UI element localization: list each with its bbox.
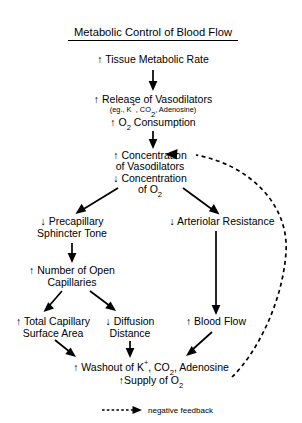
node-precapillary-sphincter-tone-line1: ↓ Precapillary [40,215,104,227]
concentration-o2-subscript: 2 [158,190,162,199]
metabolic-control-diagram: Metabolic Control of Blood Flow ↑ Tissue… [0,0,302,423]
node-tissue-metabolic-rate: ↑ Tissue Metabolic Rate [97,53,209,65]
edge-arteriolar-resistance-to-blood-flow [212,231,221,315]
node-open-capillaries-line2: Capillaries [47,276,96,288]
node-release-of-vasodilators: ↑ Release of Vasodilators [94,93,212,105]
supply-o2-subscript: 2 [179,381,183,390]
edge-open-capillaries-to-diffusion-distance [90,291,116,311]
vasodilator-examples-prefix: (eg., K [110,105,132,114]
o2-consumption-prefix: ↑ O [110,116,126,128]
washout-prefix: ↑ Washout of K [73,361,144,373]
edge-open-capillaries-to-surface-area [44,291,63,312]
node-diffusion-distance-line1: ↓ Diffusion [106,315,155,327]
edge-surface-area-to-washout [55,340,76,357]
edge-concentration-to-arteriolar-resistance [183,188,220,215]
node-concentration-vasodilators-line2: of Vasodilators [116,160,185,172]
page-title: Metabolic Control of Blood Flow [74,26,233,38]
legend: negative feedback [102,406,214,415]
edge-metabolic-rate-to-vasodilators [149,70,158,91]
vasodilator-examples-suffix: , Adenosine) [155,105,196,114]
supply-prefix: ↑Supply of O [119,374,179,386]
washout-suffix: , Adenosine [174,361,229,373]
node-precapillary-sphincter-tone-line2: Sphincter Tone [37,227,107,239]
washout-mid: , CO [148,361,170,373]
concentration-o2-prefix: of O [138,183,158,195]
node-open-capillaries-line1: ↑ Number of Open [29,264,115,276]
edge-blood-flow-to-washout [186,332,212,356]
edge-sphincter-tone-to-open-capillaries [68,243,77,263]
node-arteriolar-resistance: ↓ Arteriolar Resistance [169,215,274,227]
legend-label: negative feedback [148,406,214,415]
node-blood-flow: ↑ Blood Flow [186,315,247,327]
edge-diffusion-distance-to-washout [126,341,135,358]
vasodilator-examples-mid: , CO [136,105,151,114]
o2-consumption-suffix: Consumption [131,116,196,128]
edge-vasodilators-to-concentration [149,131,158,149]
node-diffusion-distance-line2: Distance [110,327,151,339]
node-total-capillary-surface-area-line1: ↑ Total Capillary [16,315,91,327]
node-concentration-o2-line2: of O2 [138,183,162,199]
node-total-capillary-surface-area-line2: Surface Area [23,327,84,339]
edge-concentration-to-precapillary [76,188,119,214]
node-o2-consumption: ↑ O2 Consumption [110,116,196,132]
legend-arrow-head-icon [133,406,143,414]
flowchart-canvas: Metabolic Control of Blood Flow ↑ Tissue… [0,0,302,423]
node-supply-line2: ↑Supply of O2 [119,374,183,390]
